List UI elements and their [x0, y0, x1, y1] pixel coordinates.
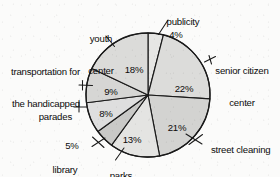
label-parks: parks	[93, 160, 139, 177]
value-parks-text: 13%	[123, 134, 142, 145]
label-library-aides: library aides	[38, 144, 92, 177]
label-youth-center-line1: youth	[73, 34, 129, 45]
value-street-cleaning-text: 21%	[168, 122, 187, 133]
label-senior-citizen-center-line2: center	[204, 98, 280, 109]
label-transportation-line2: the handicapped	[2, 99, 80, 110]
value-senior-citizen-center-text: 22%	[175, 83, 194, 94]
label-street-cleaning: street cleaning	[201, 134, 280, 166]
label-parks-text: parks	[110, 170, 133, 177]
value-street-cleaning: 21%	[152, 112, 192, 144]
label-transportation-line1: transportation for	[2, 67, 80, 78]
label-street-cleaning-text: street cleaning	[211, 144, 271, 155]
pie-chart-figure: publicity 4% senior citizen center stree…	[0, 0, 280, 177]
value-transportation-text: 9%	[104, 86, 117, 97]
label-senior-citizen-center-line1: senior citizen	[204, 66, 280, 77]
value-youth-center-text: 18%	[125, 64, 144, 75]
value-senior-citizen-center: 22%	[159, 73, 199, 105]
value-youth-center: 18%	[109, 54, 149, 86]
value-publicity: 4%	[146, 19, 196, 51]
label-transportation-handicapped: transportation for the handicapped	[2, 46, 80, 131]
label-senior-citizen-center: senior citizen center	[204, 45, 280, 130]
value-parades-text: 8%	[99, 108, 112, 119]
label-library-aides-line1: library	[38, 165, 92, 176]
value-publicity-text: 4%	[169, 29, 182, 40]
leader-tick-library-aides	[93, 137, 105, 148]
